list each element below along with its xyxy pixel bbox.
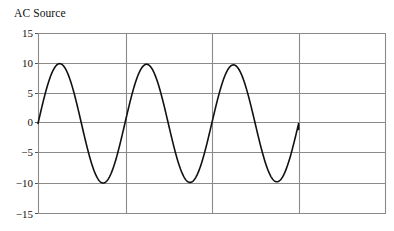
- y-tick-label-0: 0: [28, 116, 34, 128]
- chart-figure: AC Source 15 10 5 0 −5 −10 −15: [0, 0, 394, 231]
- y-tick-label-10: 10: [22, 57, 34, 69]
- y-tick-label-15: 15: [22, 27, 34, 39]
- y-tick-label-5: 5: [28, 87, 34, 99]
- y-tick-label-neg5: −5: [21, 146, 33, 158]
- y-tick-label-neg10: −10: [16, 177, 34, 189]
- y-axis-tick-labels: 15 10 5 0 −5 −10 −15: [16, 27, 34, 220]
- y-tick-label-neg15: −15: [16, 208, 34, 220]
- plot-area: 15 10 5 0 −5 −10 −15: [0, 0, 394, 231]
- data-series-ac-source: [38, 64, 299, 183]
